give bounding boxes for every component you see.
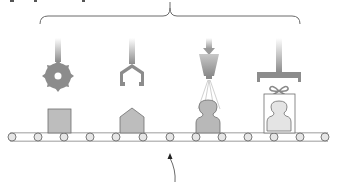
nozzle-arrowhead xyxy=(203,48,215,55)
press-shaft xyxy=(276,38,282,72)
claw-icon xyxy=(120,64,144,86)
station-1-saw-cutter xyxy=(42,38,74,92)
product-square-block xyxy=(48,109,71,133)
saw-shaft xyxy=(55,38,61,62)
product-person-silhouette xyxy=(196,100,220,133)
nozzle-body-icon xyxy=(199,54,219,76)
product-gift-box xyxy=(264,87,295,133)
press-right-lip xyxy=(298,78,301,82)
station-3-spray-nozzle xyxy=(198,38,220,109)
assembly-line-diagram xyxy=(0,0,339,182)
product-house-block xyxy=(120,108,144,133)
claw-shaft xyxy=(129,38,135,64)
cut-off-header-fragments xyxy=(10,0,85,2)
conveyor-belt xyxy=(8,133,329,141)
press-left-lip xyxy=(257,78,260,82)
pointer-arrow-icon xyxy=(168,153,176,182)
press-plate-icon xyxy=(257,72,301,78)
saw-blade-icon xyxy=(42,60,74,92)
grouping-brace xyxy=(40,8,300,24)
station-4-press-stamp xyxy=(257,38,301,82)
station-2-claw-gripper xyxy=(120,38,144,86)
nozzle-tip xyxy=(206,76,212,79)
